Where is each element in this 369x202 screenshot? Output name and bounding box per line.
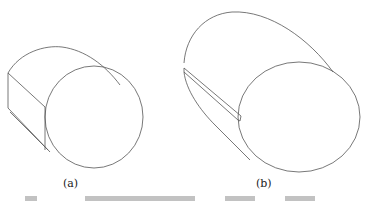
cylinder-a [8, 47, 143, 168]
panel-label-a: (a) [63, 177, 78, 190]
truncated-caption [0, 194, 369, 202]
cylinder-b [184, 12, 360, 172]
back-arc-a [8, 47, 120, 85]
panel-label-b: (b) [256, 177, 272, 190]
front-ellipse-a [45, 66, 143, 168]
figure-canvas [0, 0, 369, 202]
front-ellipse-b [238, 62, 360, 172]
